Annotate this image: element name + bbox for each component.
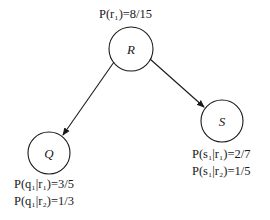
prob-r1: P(r₁)=8/15 <box>99 6 152 23</box>
node-s: S <box>201 100 243 142</box>
node-r-label: R <box>126 42 135 57</box>
prob-table-q: P(q₁|r₁)=3/5 P(q₁|r₂)=1/3 <box>14 176 74 210</box>
node-s-label: S <box>219 114 226 129</box>
prob-table-s: P(s₁|r₁)=2/7 P(s₁|r₂)=1/5 <box>192 146 251 180</box>
node-r: R <box>109 27 153 71</box>
node-q: Q <box>28 132 70 174</box>
node-q-label: Q <box>44 146 54 161</box>
prob-q1-given-r2: P(q₁|r₂)=1/3 <box>14 193 74 210</box>
prob-s1-given-r2: P(s₁|r₂)=1/5 <box>192 163 251 180</box>
prob-s1-given-r1: P(s₁|r₁)=2/7 <box>192 146 251 163</box>
edge-r-to-q <box>63 62 114 135</box>
prob-q1-given-r1: P(q₁|r₁)=3/5 <box>14 176 74 193</box>
edge-r-to-s <box>150 59 204 107</box>
prob-table-r: P(r₁)=8/15 <box>99 6 152 23</box>
